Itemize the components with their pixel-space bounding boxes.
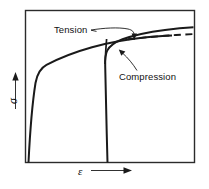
y-axis-label: σ [6, 98, 21, 104]
stress-strain-figure: Tension Compression σ ε [0, 0, 209, 189]
plot-frame [26, 11, 195, 163]
y-axis-arrowhead [12, 72, 18, 81]
figure-canvas [0, 0, 209, 189]
tension-annotation-label: Tension [54, 24, 87, 35]
compression-annotation-label: Compression [119, 71, 176, 82]
x-axis-label: ε [78, 165, 82, 177]
x-axis-arrowhead [124, 167, 133, 174]
